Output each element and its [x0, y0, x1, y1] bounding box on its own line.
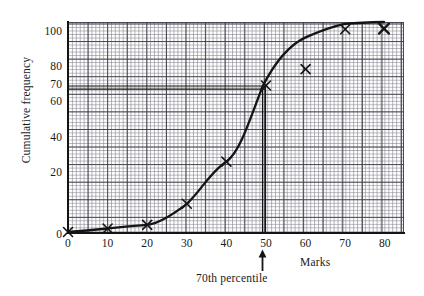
data-point-markers [64, 24, 390, 237]
y-axis-title: Cumulative frequency [20, 40, 32, 180]
x-tick-label-60: 60 [291, 238, 321, 250]
percentile-annotation-label: 70th percentile [196, 272, 268, 284]
data-point-40-40 [222, 157, 231, 166]
y-tick-label-60: 60 [28, 96, 62, 108]
data-point-60-90 [301, 65, 310, 74]
x-tick-label-20: 20 [132, 238, 162, 250]
y-tick-label-80: 80 [28, 61, 62, 73]
x-tick-label-40: 40 [211, 238, 241, 250]
x-tick-label-30: 30 [172, 238, 202, 250]
data-point-70-99 [341, 25, 350, 34]
chart-overlay [0, 0, 424, 296]
x-tick-label-80: 80 [370, 238, 400, 250]
x-tick-label-70: 70 [330, 238, 360, 250]
cumulative-frequency-chart: 100 80 70 60 40 20 0 0 10 20 30 40 50 60… [0, 0, 424, 296]
x-tick-label-50: 50 [251, 238, 281, 250]
y-tick-label-40: 40 [28, 132, 62, 144]
x-tick-label-10: 10 [93, 238, 123, 250]
x-axis-title: Marks [300, 256, 330, 268]
data-point-30-16 [182, 199, 191, 208]
y-tick-label-70: 70 [28, 79, 62, 91]
data-point-80-100 [379, 24, 389, 34]
y-tick-label-20: 20 [28, 167, 62, 179]
y-tick-label-100: 100 [28, 26, 62, 38]
x-tick-label-0: 0 [53, 238, 83, 250]
percentile-arrow-icon [259, 250, 267, 272]
ogive-curve [68, 22, 384, 232]
